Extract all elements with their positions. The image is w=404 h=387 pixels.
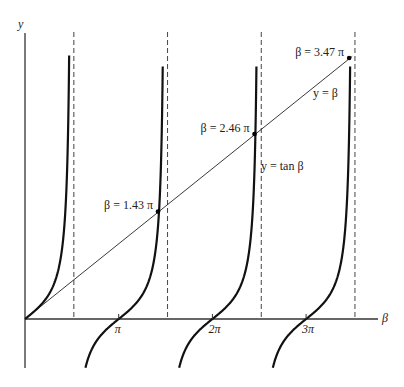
- y-equals-beta-label: y = β: [313, 86, 338, 100]
- x-tick-label: π: [115, 322, 122, 336]
- figure: π2π3π β = 1.43 πβ = 2.46 πβ = 3.47 π y β…: [0, 0, 404, 387]
- intersection-label: β = 3.47 π: [295, 45, 344, 59]
- x-tick-label: 3π: [301, 322, 315, 336]
- intersection-point: [156, 209, 161, 214]
- intersection-label: β = 1.43 π: [104, 198, 153, 212]
- x-tick-label: 2π: [208, 322, 221, 336]
- y-axis-label: y: [17, 17, 24, 31]
- tan-branch: [25, 56, 69, 319]
- intersection-label: β = 2.46 π: [201, 121, 250, 135]
- x-axis-label: β: [381, 311, 388, 325]
- intersection-point: [252, 132, 257, 137]
- tan-beta-plot: π2π3π β = 1.43 πβ = 2.46 πβ = 3.47 π y β…: [0, 0, 404, 387]
- intersection-point: [347, 56, 352, 61]
- y-equals-tan-beta-label: y = tan β: [261, 159, 304, 173]
